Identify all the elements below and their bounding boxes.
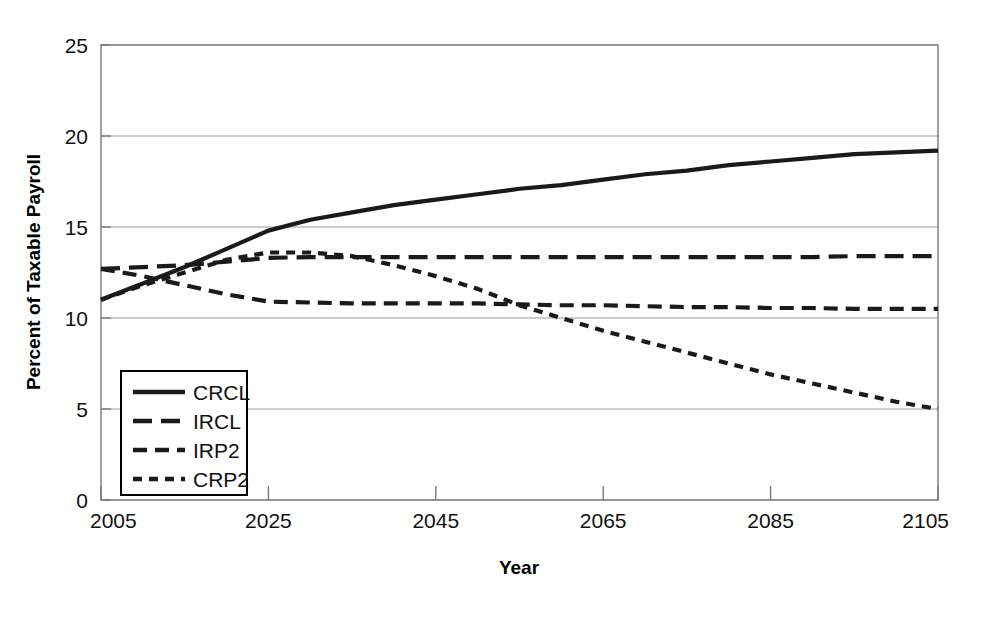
- y-tick-label-5: 5: [76, 398, 88, 421]
- y-axis-tick-labels: 0510152025: [65, 34, 88, 512]
- y-tick-label-10: 10: [65, 307, 88, 330]
- legend: CRCLIRCLIRP2CRP2: [121, 371, 250, 495]
- legend-label-irp2: IRP2: [193, 439, 240, 462]
- x-tick-label-2085: 2085: [747, 509, 794, 532]
- x-tick-label-2065: 2065: [580, 509, 627, 532]
- x-axis-title: Year: [499, 557, 540, 578]
- x-tick-label-2005: 2005: [90, 509, 137, 532]
- y-tick-label-25: 25: [65, 34, 88, 57]
- legend-label-crcl: CRCL: [193, 381, 250, 404]
- y-axis-title: Percent of Taxable Payroll: [23, 154, 44, 390]
- x-tick-label-2105: 2105: [902, 509, 949, 532]
- y-tick-label-0: 0: [76, 489, 88, 512]
- x-tick-label-2025: 2025: [245, 509, 292, 532]
- y-tick-label-20: 20: [65, 125, 88, 148]
- chart-container: 200520252045206520852105 0510152025 Year…: [0, 0, 999, 617]
- legend-label-ircl: IRCL: [193, 410, 241, 433]
- legend-label-crp2: CRP2: [193, 468, 249, 491]
- x-axis-tick-labels: 200520252045206520852105: [90, 509, 949, 532]
- y-tick-label-15: 15: [65, 216, 88, 239]
- line-chart: 200520252045206520852105 0510152025 Year…: [0, 0, 999, 617]
- x-tick-label-2045: 2045: [412, 509, 459, 532]
